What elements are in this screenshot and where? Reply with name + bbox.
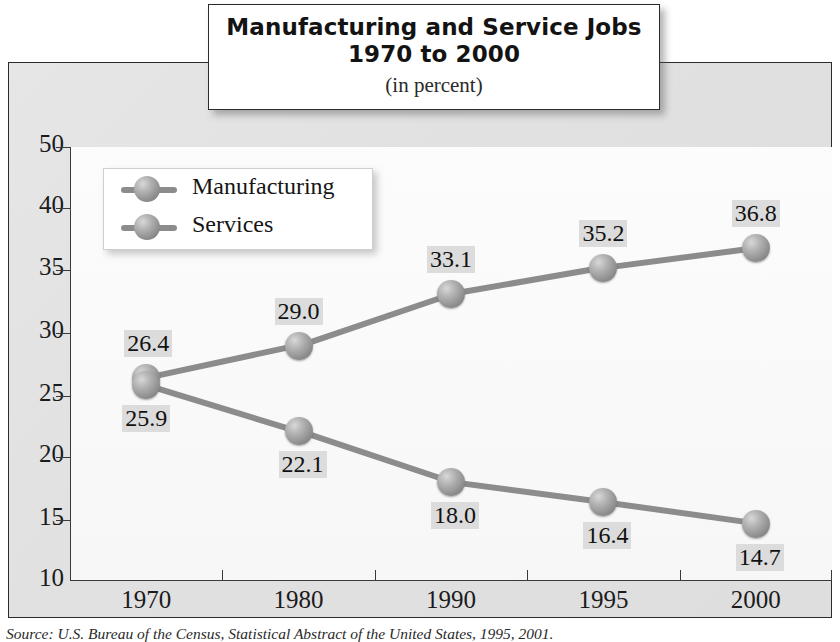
data-point-label: 22.1 — [279, 451, 327, 478]
page-title: Manufacturing and Service Jobs — [209, 14, 659, 41]
y-axis-tick-label: 50 — [16, 130, 64, 158]
x-axis-tick-mark — [222, 570, 223, 581]
y-axis-tick-label: 35 — [16, 253, 64, 281]
data-point-marker[interactable] — [285, 417, 313, 445]
data-point-label: 14.7 — [736, 544, 784, 571]
legend: Manufacturing Services — [103, 168, 373, 250]
data-point-marker[interactable] — [742, 234, 770, 262]
chart-title-box: Manufacturing and Service Jobs 1970 to 2… — [208, 4, 660, 110]
title-units: (in percent) — [209, 73, 659, 98]
data-point-marker[interactable] — [285, 332, 313, 360]
data-point-marker[interactable] — [132, 371, 160, 399]
x-axis-tick-mark — [680, 570, 681, 581]
source-prefix: Source: — [6, 625, 54, 642]
data-point-label: 26.4 — [124, 330, 172, 357]
legend-item-manufacturing: Manufacturing — [104, 169, 372, 207]
x-axis-tick-label: 1990 — [391, 586, 511, 614]
x-axis-tick-mark — [831, 570, 832, 581]
source-note: Source: U.S. Bureau of the Census, Stati… — [6, 625, 836, 642]
data-point-marker[interactable] — [589, 254, 617, 282]
data-point-label: 25.9 — [122, 405, 170, 432]
data-point-label: 36.8 — [732, 200, 780, 227]
y-axis-tick-label: 20 — [16, 440, 64, 468]
y-axis-tick-label: 10 — [16, 564, 64, 592]
x-axis-tick-label: 1995 — [543, 586, 663, 614]
data-point-label: 29.0 — [275, 298, 323, 325]
data-point-label: 33.1 — [427, 246, 475, 273]
legend-label-services: Services — [192, 211, 273, 238]
source-text: U.S. Bureau of the Census, Statistical A… — [54, 625, 554, 642]
x-axis-tick-mark — [375, 570, 376, 581]
x-axis-tick-label: 2000 — [696, 586, 816, 614]
sphere-marker-icon — [134, 176, 160, 202]
title-subrange: 1970 to 2000 — [209, 41, 659, 68]
legend-label-manufacturing: Manufacturing — [192, 173, 335, 200]
x-axis-tick-label: 1970 — [86, 586, 206, 614]
data-point-label: 16.4 — [583, 522, 631, 549]
y-axis-tick-mark — [56, 208, 70, 209]
y-axis-tick-label: 15 — [16, 503, 64, 531]
legend-item-services: Services — [104, 207, 372, 245]
y-axis-tick-label: 25 — [16, 379, 64, 407]
data-point-marker[interactable] — [437, 280, 465, 308]
y-axis-tick-mark — [56, 457, 70, 458]
data-point-marker[interactable] — [742, 510, 770, 538]
data-point-label: 18.0 — [431, 502, 479, 529]
sphere-marker-icon — [134, 214, 160, 240]
y-axis-tick-label: 30 — [16, 316, 64, 344]
data-point-label: 35.2 — [579, 220, 627, 247]
y-axis-tick-mark — [56, 147, 70, 148]
y-axis-tick-mark — [56, 270, 70, 271]
y-axis-tick-mark — [56, 520, 70, 521]
y-axis-tick-mark — [56, 333, 70, 334]
x-axis-tick-mark — [527, 570, 528, 581]
x-axis-tick-label: 1980 — [239, 586, 359, 614]
y-axis-tick-label: 40 — [16, 191, 64, 219]
y-axis-tick-mark — [56, 396, 70, 397]
data-point-marker[interactable] — [437, 468, 465, 496]
chart-page: 5040353025201510 19701980199019952000 26… — [0, 0, 840, 642]
